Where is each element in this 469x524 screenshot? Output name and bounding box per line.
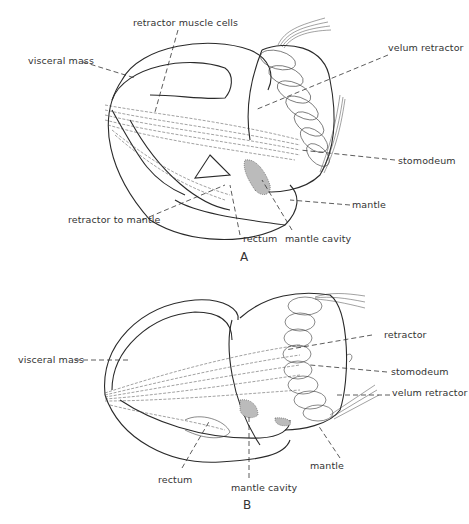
figure-a-letter: A (240, 250, 248, 264)
label-b-mantle-cavity: mantle cavity (231, 482, 297, 493)
label-a-rectum: rectum (243, 233, 277, 244)
label-a-velum-retractor: velum retractor (388, 42, 464, 53)
label-b-rectum: rectum (158, 474, 192, 485)
label-a-visceral-mass: visceral mass (28, 55, 94, 66)
figure-b-drawing (105, 293, 379, 462)
label-b-retractor: retractor (384, 329, 427, 340)
leader-lines (75, 30, 395, 478)
label-b-visceral-mass: visceral mass (18, 354, 84, 365)
label-b-velum-retractor: velum retractor (392, 387, 468, 398)
figure-a-drawing (105, 18, 345, 239)
label-a-mantle: mantle (352, 199, 386, 210)
label-a-stomodeum: stomodeum (398, 155, 456, 166)
diagram-canvas (0, 0, 469, 524)
label-b-mantle: mantle (310, 460, 344, 471)
label-b-stomodeum: stomodeum (391, 366, 449, 377)
label-a-retractor-to-mantle: retractor to mantle (68, 214, 160, 225)
figure-b-letter: B (243, 498, 251, 512)
label-a-retractor-muscle-cells: retractor muscle cells (133, 17, 238, 28)
label-a-mantle-cavity: mantle cavity (285, 233, 351, 244)
